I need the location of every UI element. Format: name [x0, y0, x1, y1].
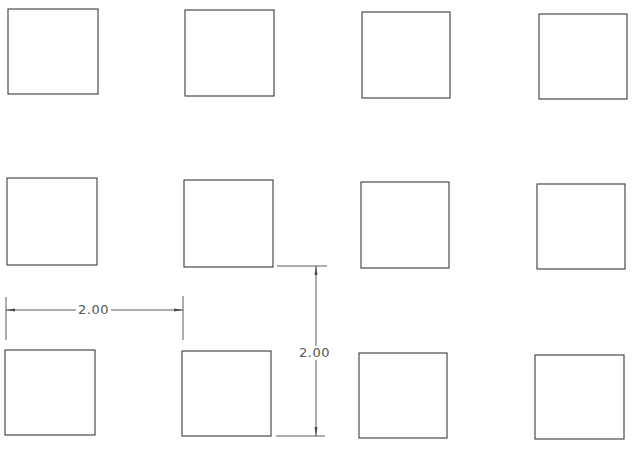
square-r3-c3	[359, 353, 447, 438]
square-r2-c2	[184, 180, 273, 267]
square-r3-c4	[535, 355, 624, 439]
square-r1-c2	[185, 10, 274, 96]
square-r1-c3	[362, 12, 450, 98]
square-r2-c1	[7, 178, 97, 265]
square-r2-c4	[537, 184, 625, 269]
square-r2-c3	[361, 182, 449, 268]
square-r1-c4	[539, 14, 627, 99]
arrow-left-icon	[6, 309, 15, 312]
horizontal-dimension-label: 2.00	[76, 303, 111, 317]
square-r3-c1	[5, 350, 95, 435]
arrow-up-icon	[315, 266, 318, 275]
arrow-right-icon	[174, 309, 183, 312]
square-r3-c2	[182, 351, 271, 436]
vertical-dimension-label: 2.00	[297, 346, 332, 360]
drawing-canvas	[0, 0, 632, 454]
arrow-down-icon	[315, 427, 318, 436]
square-r1-c1	[8, 9, 98, 94]
